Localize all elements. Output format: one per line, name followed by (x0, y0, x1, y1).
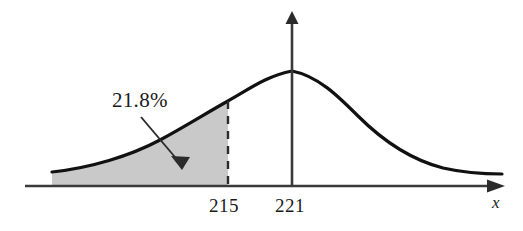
shaded-area-percent-label: 21.8% (112, 90, 168, 111)
x-axis-label: x (492, 194, 500, 211)
shaded-area-region (52, 101, 228, 186)
distribution-chart-svg (0, 0, 523, 231)
x-axis-arrowhead-icon (487, 180, 505, 193)
normal-distribution-figure: 21.8% 215 221 x (0, 0, 523, 231)
x-tick-label-215: 215 (209, 196, 239, 215)
x-tick-label-221: 221 (275, 196, 305, 215)
normal-curve (52, 71, 502, 174)
y-axis-arrowhead-icon (286, 11, 299, 24)
